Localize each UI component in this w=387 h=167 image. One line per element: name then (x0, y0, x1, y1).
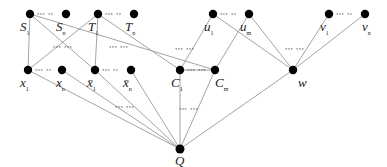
node-u1 (209, 10, 217, 18)
node-label-x1: x1 (20, 76, 29, 92)
ellipsis-marker: ··· ·· (35, 67, 52, 73)
node-x1 (24, 66, 32, 74)
node-Cm (211, 66, 219, 74)
ellipsis-marker: ··· ·· (220, 11, 237, 17)
node-xbn (127, 66, 135, 74)
ellipsis-marker: ··· ··· (115, 104, 134, 110)
edge-T1-C1 (98, 14, 180, 70)
ellipsis-marker: ··· ·· (105, 11, 122, 17)
edge-xb1-Q (95, 70, 180, 149)
node-label-xn: xn (56, 76, 65, 92)
node-label-Tn: Tn (125, 20, 135, 36)
node-label-w: w (298, 76, 307, 89)
node-label-xb1: x̄1 (87, 76, 96, 92)
edge-x1-Q (28, 70, 180, 149)
ellipsis-marker: ··· ·· (102, 67, 119, 73)
ellipsis-marker: ··· ··· (179, 106, 198, 112)
edge-vn-w (293, 14, 365, 70)
node-xb1 (91, 66, 99, 74)
node-label-C1: C1 (171, 76, 183, 92)
node-label-Cm: Cm (215, 76, 228, 92)
ellipsis-marker: ··· ·· (37, 11, 54, 17)
node-um (245, 10, 253, 18)
ellipsis-marker: ··· ··· (109, 44, 128, 50)
node-label-um: um (240, 20, 251, 36)
ellipsis-marker: ··· ··· (187, 67, 206, 73)
node-label-vn: vn (362, 20, 371, 36)
node-T1 (94, 10, 102, 18)
node-label-S1: S1 (20, 20, 30, 36)
node-label-T1: T1 (88, 20, 98, 36)
node-label-v1: v1 (320, 20, 329, 36)
node-w (289, 66, 297, 74)
node-v1 (325, 10, 333, 18)
node-label-Sn: Sn (56, 20, 66, 36)
node-label-Q: Q (175, 154, 184, 167)
node-Sn (62, 10, 70, 18)
ellipsis-marker: ··· ·· (336, 11, 353, 17)
edge-u1-w (213, 14, 293, 70)
node-vn (361, 10, 369, 18)
node-S1 (26, 10, 34, 18)
ellipsis-marker: ··· ··· (285, 46, 304, 52)
node-Tn (130, 10, 138, 18)
ellipsis-marker: ··· ··· (175, 46, 194, 52)
node-label-xbn: x̄n (123, 76, 132, 92)
ellipsis-marker: ··· ··· (53, 44, 72, 50)
node-label-u1: u1 (204, 20, 214, 36)
edge-um-w (249, 14, 293, 70)
graph-edges (28, 14, 365, 149)
node-xn (58, 66, 66, 74)
node-C1 (176, 66, 184, 74)
